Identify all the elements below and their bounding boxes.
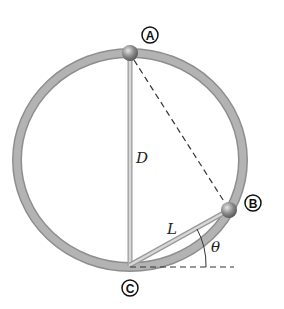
label-diameter-D: D: [135, 149, 148, 167]
point-label-B: B: [245, 195, 261, 211]
label-angle-theta: θ: [211, 238, 220, 256]
label-length-L: L: [166, 220, 177, 238]
ball-B: [221, 202, 237, 218]
svg-text:B: B: [249, 197, 258, 211]
svg-text:A: A: [146, 29, 155, 43]
ball-A: [122, 45, 138, 61]
hoop-diagram: A B C D L θ: [0, 0, 284, 309]
point-label-C: C: [122, 280, 138, 296]
point-label-A: A: [142, 27, 158, 43]
svg-text:C: C: [126, 282, 135, 296]
